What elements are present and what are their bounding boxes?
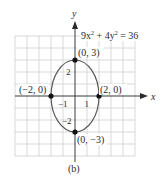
equation: 9x2 + 4y2 = 36 (80, 30, 143, 41)
tick-label-x-neg1: −1 (58, 99, 68, 109)
point-label-top: (0, 3) (78, 47, 100, 59)
y-axis-arrow-icon (72, 21, 78, 29)
point-label-left: (−2, 0) (19, 84, 46, 96)
x-axis-arrow-icon (140, 93, 148, 99)
point-label-right: (2, 0) (100, 84, 122, 96)
vertex-left (48, 93, 53, 98)
tick-label-y-neg2: −2 (62, 116, 72, 126)
point-label-bottom: (0, −3) (77, 134, 104, 146)
ellipse-graph: x y −1 1 2 −2 (0, 3) (2, 0) (0, −3) (−2,… (0, 0, 166, 185)
equation-label: 9x2 + 4y2 = 36 (81, 30, 138, 41)
y-axis-label: y (71, 8, 77, 19)
vertex-top (72, 57, 77, 62)
tick-label-y-pos2: 2 (66, 67, 71, 77)
tick-label-x-pos1: 1 (85, 99, 90, 109)
x-axis-label: x (150, 91, 156, 102)
figure-caption: (b) (68, 163, 80, 175)
